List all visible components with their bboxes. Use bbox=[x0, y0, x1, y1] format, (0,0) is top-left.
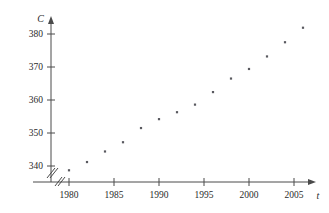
data-point bbox=[194, 104, 196, 106]
data-point bbox=[158, 118, 160, 120]
data-point bbox=[266, 55, 268, 57]
x-tick-label-1990: 1990 bbox=[150, 190, 169, 200]
chart-svg: 340 350 360 370 380 1980 1985 1990 1995 … bbox=[0, 0, 329, 213]
x-tick-label-1985: 1985 bbox=[105, 190, 124, 200]
data-point bbox=[302, 27, 304, 29]
x-tick-label-1995: 1995 bbox=[195, 190, 214, 200]
y-tick-label-380: 380 bbox=[29, 29, 44, 39]
data-point bbox=[68, 169, 70, 171]
y-tick-label-370: 370 bbox=[29, 62, 44, 72]
x-tick-label-2005: 2005 bbox=[285, 190, 304, 200]
y-tick-label-360: 360 bbox=[29, 95, 44, 105]
data-point bbox=[212, 91, 214, 93]
data-point bbox=[86, 161, 88, 163]
scatter-chart: 340 350 360 370 380 1980 1985 1990 1995 … bbox=[0, 0, 329, 213]
data-point bbox=[140, 127, 142, 129]
data-point bbox=[284, 41, 286, 43]
y-axis-break-icon bbox=[47, 168, 58, 178]
y-tick-label-350: 350 bbox=[29, 128, 44, 138]
data-point bbox=[248, 68, 250, 70]
data-point-group bbox=[68, 27, 304, 172]
y-axis-label: C bbox=[37, 13, 44, 24]
y-tick-label-340: 340 bbox=[29, 161, 44, 171]
data-point bbox=[122, 141, 124, 143]
y-axis-arrow-icon bbox=[48, 16, 54, 24]
x-tick-label-2000: 2000 bbox=[240, 190, 259, 200]
data-point bbox=[230, 77, 232, 79]
x-tick-label-1980: 1980 bbox=[60, 190, 79, 200]
data-point bbox=[104, 150, 106, 152]
x-axis-label: t bbox=[317, 190, 320, 201]
x-axis-arrow-icon bbox=[308, 179, 316, 185]
data-point bbox=[176, 111, 178, 113]
